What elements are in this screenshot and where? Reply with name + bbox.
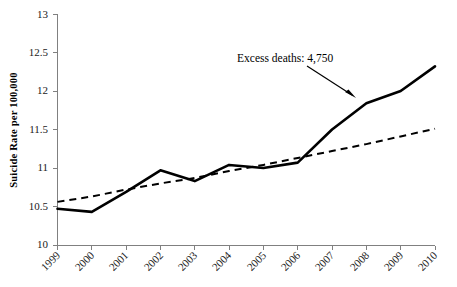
y-axis-title: Suicide Rate per 100,000 — [8, 72, 19, 187]
y-tick-label: 11 — [37, 161, 48, 173]
annotation-label: Excess deaths: 4,750 — [237, 52, 333, 65]
y-tick-label: 13 — [37, 8, 49, 20]
y-tick-label: 11.5 — [29, 123, 48, 135]
y-tick-label: 12.5 — [29, 46, 49, 58]
chart-figure: 13 12.5 12 11.5 11 10.5 10 Suicide Rate … — [0, 0, 457, 287]
y-tick-label: 10.5 — [29, 200, 49, 212]
y-tick-label: 12 — [37, 84, 48, 96]
y-tick-label: 10 — [37, 238, 49, 250]
chart-background — [0, 0, 457, 287]
suicide-rate-line-chart: 13 12.5 12 11.5 11 10.5 10 Suicide Rate … — [0, 0, 457, 287]
